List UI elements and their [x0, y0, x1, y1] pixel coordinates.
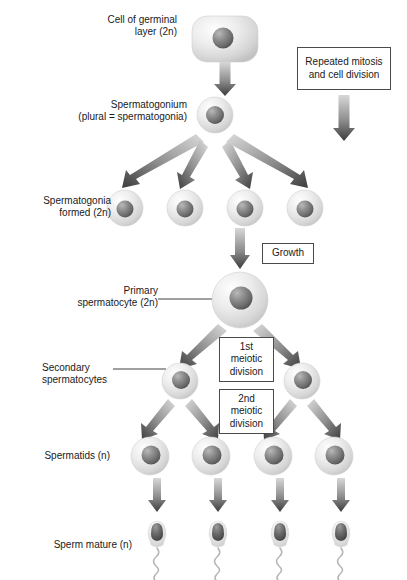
arrow-maturation-2 [209, 478, 227, 512]
arrow-growth [230, 228, 250, 269]
cell-secondary-spermatocyte-1 [162, 363, 198, 399]
cell-spermatogonia-3 [227, 190, 263, 226]
arrow-second-meiotic-2 [185, 399, 219, 440]
cell-spermatid-1 [131, 437, 169, 475]
spermatogenesis-diagram: Cell of germinal layer (2n) Spermatogoni… [0, 0, 407, 580]
arrow-maturation-1 [148, 478, 166, 512]
cell-spermatid-3 [254, 437, 292, 475]
cell-secondary-spermatocyte-2 [284, 363, 320, 399]
arrow-second-meiotic-4 [307, 399, 341, 440]
label-primary-spermatocyte: Primary spermatocyte (2n) [38, 285, 158, 309]
arrow-maturation-4 [332, 478, 350, 512]
label-cell-of-germinal-layer: Cell of germinal layer (2n) [62, 14, 177, 38]
sperm-mature-1 [148, 521, 166, 580]
label-secondary-spermatocytes: Secondary spermatocytes [42, 362, 142, 386]
sperm-mature-2 [209, 521, 227, 580]
cell-spermatogonium [197, 97, 233, 133]
arrow-repeated-mitosis [333, 95, 355, 141]
label-spermatids: Spermatids (n) [10, 450, 110, 462]
cell-primary-spermatocyte [212, 272, 268, 328]
box-repeated-mitosis: Repeated mitosis and cell division [297, 47, 391, 90]
box-first-meiotic-division: 1st meiotic division [219, 337, 274, 382]
arrow-maturation-3 [271, 478, 289, 512]
cell-spermatid-2 [192, 437, 230, 475]
label-spermatogonia-formed: Spermatogonia formed (2n) [6, 195, 111, 219]
box-growth: Growth [262, 243, 314, 264]
arrow-germinal-to-spermatogonium [214, 62, 236, 96]
cell-spermatid-4 [315, 437, 353, 475]
cell-spermatogonia-1 [107, 190, 143, 226]
label-sperm-mature: Sperm mature (n) [22, 539, 132, 551]
cell-germinal-layer [192, 16, 258, 62]
cell-spermatogonia-2 [167, 190, 203, 226]
box-second-meiotic-division: 2nd meiotic division [219, 389, 274, 434]
sperm-mature-4 [332, 521, 350, 580]
arrow-second-meiotic-1 [141, 399, 175, 440]
cell-spermatogonia-4 [287, 190, 323, 226]
sperm-mature-3 [271, 521, 289, 580]
label-spermatogonium: Spermatogonium (plural = spermatogonia) [52, 99, 187, 123]
